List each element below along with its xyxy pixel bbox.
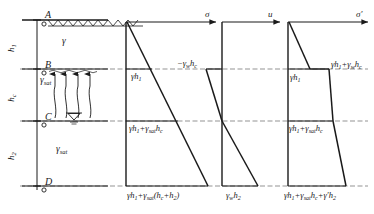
sigma-prime-label-at-B-left: γh1 <box>290 72 301 83</box>
layer-height-labels: h1 hc h2 <box>6 44 17 160</box>
sigma-axis-label: σ <box>205 9 210 19</box>
capillary-arrow-4 <box>89 74 91 118</box>
unit-weight-gamma: γ <box>62 36 66 46</box>
figure-canvas: A B C D h1 hc h2 γ γsat γsat <box>0 0 374 214</box>
sigma-diagram-panel: σ γh1 γh1+γsathc γh1+γsat(hc+h2) <box>126 9 216 201</box>
sigma-prime-segment-AB <box>289 22 310 69</box>
u-axis-label: u <box>268 9 273 19</box>
u-diagram-panel: u −γwhc γwh2 <box>177 9 280 201</box>
layer-height-h1: h1 <box>6 44 17 52</box>
u-negative-segment <box>206 69 222 121</box>
sigma-prime-diagram-panel: σ′ γh1 γh1+γwhc γh1+γsathc γh1+γsathc+γ′… <box>284 9 368 201</box>
capillary-arrow-1 <box>54 74 56 118</box>
point-marker-C <box>42 123 46 127</box>
unit-weight-gamma-sat-lower: γsat <box>56 144 68 155</box>
u-label-at-B: −γwhc <box>177 58 197 69</box>
u-label-at-D: γwh2 <box>226 190 241 201</box>
point-marker-D <box>42 188 46 192</box>
capillary-fringe-wave <box>49 70 97 73</box>
point-label-B: B <box>45 59 51 70</box>
capillary-arrow-3 <box>77 74 79 118</box>
point-label-A: A <box>44 9 52 20</box>
sigma-label-at-B: γh1 <box>131 71 142 82</box>
sigma-prime-segment-BC <box>329 69 333 121</box>
unit-weight-gamma-sat-capillary: γsat <box>40 75 52 86</box>
sigma-prime-label-at-C: γh1+γsathc <box>289 123 323 134</box>
u-positive-segment <box>222 121 258 186</box>
point-label-D: D <box>44 176 53 187</box>
soil-profile-panel: A B C D h1 hc h2 γ γsat γsat <box>6 9 143 192</box>
layer-height-h2: h2 <box>6 151 17 160</box>
water-table-symbol <box>66 113 82 124</box>
stress-distribution-figure: A B C D h1 hc h2 γ γsat γsat <box>0 0 374 214</box>
sigma-label-at-D: γh1+γsat(hc+h2) <box>127 190 180 201</box>
layer-height-hc: hc <box>6 94 17 102</box>
sigma-distribution-line <box>127 22 208 186</box>
capillary-rise-arrows <box>54 74 91 118</box>
profile-point-markers <box>42 22 46 192</box>
sigma-prime-label-at-B-right: γh1+γwhc <box>331 59 362 70</box>
point-marker-A <box>42 22 46 26</box>
sigma-prime-segment-CD <box>333 121 346 186</box>
capillary-arrow-2 <box>65 74 67 118</box>
sigma-label-at-C: γh1+γsathc <box>129 123 163 134</box>
sigma-prime-axis-label: σ′ <box>356 9 363 19</box>
sigma-prime-label-at-D: γh1+γsathc+γ′h2 <box>284 190 336 201</box>
point-label-C: C <box>45 111 52 122</box>
